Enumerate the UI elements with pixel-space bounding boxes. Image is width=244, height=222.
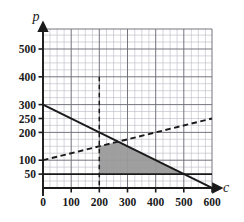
x-tick-label-100: 100: [63, 196, 81, 208]
x-tick-label-300: 300: [119, 196, 137, 208]
y-tick-label-400: 400: [19, 71, 37, 83]
y-tick-labels: 500 400 300 250 200 100 50: [19, 43, 37, 180]
y-tick-label-250: 250: [19, 113, 37, 125]
x-tick-label-200: 200: [91, 196, 109, 208]
y-tick-label-500: 500: [19, 43, 37, 55]
graph-figure: 500 400 300 250 200 100 50 0 100 200 300…: [0, 0, 244, 222]
y-tick-label-200: 200: [19, 127, 37, 139]
y-axis-label: p: [32, 9, 40, 24]
y-tick-label-50: 50: [25, 168, 37, 180]
demand-line: [43, 105, 214, 189]
x-tick-labels: 0 100 200 300 400 500 600: [40, 196, 221, 208]
y-tick-label-300: 300: [19, 99, 37, 111]
x-tick-label-0: 0: [40, 196, 46, 208]
coordinate-plane: 500 400 300 250 200 100 50 0 100 200 300…: [0, 0, 244, 222]
x-tick-label-600: 600: [203, 196, 221, 208]
x-axis-label: c: [223, 180, 230, 195]
y-tick-label-100: 100: [19, 154, 37, 166]
x-tick-label-500: 500: [175, 196, 193, 208]
x-tick-label-400: 400: [147, 196, 165, 208]
